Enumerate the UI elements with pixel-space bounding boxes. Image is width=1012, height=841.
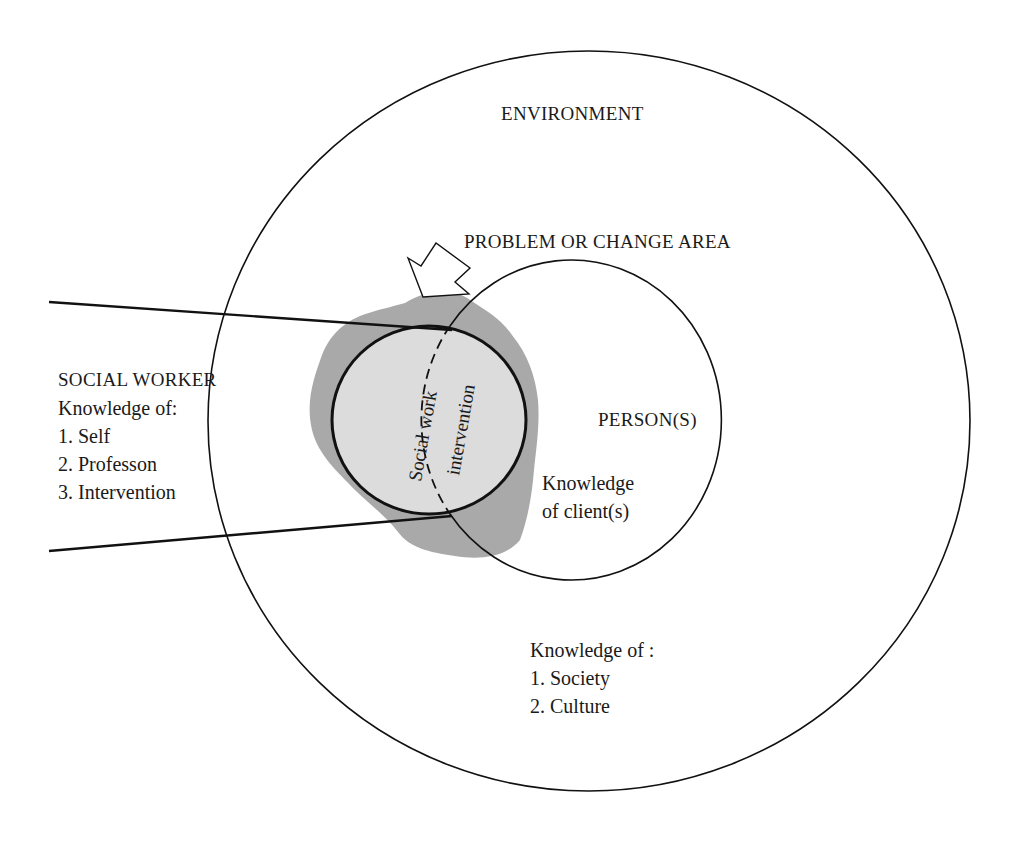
worker-lower-line bbox=[49, 516, 452, 551]
environment-knowledge-heading: Knowledge of : bbox=[530, 639, 654, 662]
environment-item-2: 2. Culture bbox=[530, 695, 610, 717]
social-worker-item-1: 1. Self bbox=[58, 425, 111, 447]
environment-title: ENVIRONMENT bbox=[501, 103, 644, 124]
social-work-diagram: ENVIRONMENT PROBLEM OR CHANGE AREA PERSO… bbox=[0, 0, 1012, 841]
social-worker-item-2: 2. Professon bbox=[58, 453, 157, 475]
person-knowledge-line1: Knowledge bbox=[542, 472, 634, 495]
social-worker-title: SOCIAL WORKER bbox=[58, 369, 217, 390]
social-worker-item-3: 3. Intervention bbox=[58, 481, 176, 503]
hollow-arrow-icon bbox=[408, 243, 470, 297]
environment-item-1: 1. Society bbox=[530, 667, 610, 690]
problem-area-title: PROBLEM OR CHANGE AREA bbox=[464, 231, 731, 252]
social-worker-knowledge-heading: Knowledge of: bbox=[58, 397, 177, 420]
person-title: PERSON(S) bbox=[598, 409, 697, 431]
person-knowledge-line2: of client(s) bbox=[542, 500, 629, 523]
